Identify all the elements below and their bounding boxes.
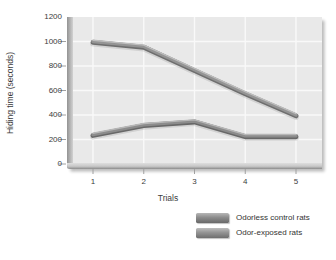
y-tick-label: 1000 <box>28 37 62 47</box>
legend-item-odor-exposed: Odor-exposed rats <box>196 225 310 240</box>
x-axis-line <box>67 163 322 169</box>
y-tick-label: 400 <box>28 110 62 120</box>
y-axis-line <box>67 17 73 169</box>
legend-item-odorless-control: Odorless control rats <box>196 210 310 225</box>
x-tick-label: 1 <box>83 177 103 187</box>
plot-area <box>73 17 322 163</box>
x-tick-label: 2 <box>134 177 154 187</box>
x-tick-label: 3 <box>185 177 205 187</box>
hiding-time-line-chart: Hiding time (seconds) 020040060080010001… <box>0 0 336 260</box>
y-tick-label: 0 <box>28 159 62 169</box>
legend: Odorless control rats Odor-exposed rats <box>196 210 310 240</box>
y-tick-label: 800 <box>28 61 62 71</box>
legend-label-odorless-control: Odorless control rats <box>236 213 310 222</box>
y-tick-label: 1200 <box>28 12 62 22</box>
legend-swatch-odor-exposed <box>196 228 229 238</box>
x-tick-label: 4 <box>235 177 255 187</box>
x-tick-label: 5 <box>286 177 306 187</box>
legend-label-odor-exposed: Odor-exposed rats <box>236 228 302 237</box>
legend-swatch-odorless-control <box>196 213 229 223</box>
y-axis-title: Hiding time (seconds) <box>5 52 15 134</box>
y-tick-label: 200 <box>28 135 62 145</box>
x-axis-title: Trials <box>0 193 336 203</box>
y-tick-label: 600 <box>28 86 62 96</box>
